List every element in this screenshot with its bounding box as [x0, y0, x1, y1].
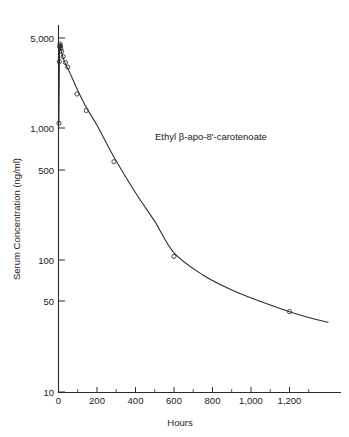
y-axis-title: Serum Concentration (ng/ml)	[11, 158, 22, 280]
x-tick-label: 800	[205, 395, 221, 406]
x-tick-label: 1,000	[239, 395, 263, 406]
y-tick-label: 5,000	[30, 33, 54, 44]
x-tick-label: 1,200	[278, 395, 302, 406]
x-tick-label: 400	[128, 395, 144, 406]
data-point-markers	[57, 42, 292, 314]
x-axis-ticks	[59, 387, 290, 393]
y-axis-tick-labels: 5,000 1,000 500 100 50 10	[30, 33, 54, 398]
x-tick-label: 600	[166, 395, 182, 406]
y-tick-label: 10	[43, 387, 54, 398]
chart-figure: Serum Concentration (ng/ml) 5,000 1,000 …	[0, 0, 349, 437]
y-tick-label: 50	[43, 296, 54, 307]
series-annotation-label: Ethyl β-apo-8'-carotenoate	[155, 131, 267, 142]
fitted-curve	[59, 44, 328, 323]
chart-svg: Serum Concentration (ng/ml) 5,000 1,000 …	[0, 0, 349, 437]
y-tick-label: 100	[38, 255, 54, 266]
data-point	[172, 254, 176, 258]
y-tick-label: 500	[38, 165, 54, 176]
y-tick-label: 1,000	[30, 123, 54, 134]
x-axis-title: Hours	[167, 417, 193, 428]
x-tick-label: 200	[89, 395, 105, 406]
x-axis-tick-labels: 0 200 400 600 800 1,000 1,200	[56, 395, 302, 406]
x-tick-label: 0	[56, 395, 61, 406]
data-point	[75, 92, 79, 96]
data-point	[112, 160, 116, 164]
